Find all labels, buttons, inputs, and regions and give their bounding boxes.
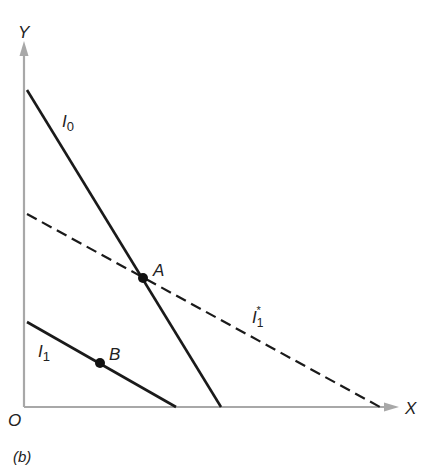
line-i0: [27, 90, 221, 407]
point-a: [138, 273, 148, 283]
y-axis-arrow-icon: [20, 41, 29, 56]
origin-label: O: [8, 411, 21, 430]
y-axis-label: Y: [18, 23, 31, 42]
point-b: [95, 358, 105, 368]
axes: [20, 41, 400, 412]
line-i1-star-label: I1*: [252, 304, 264, 330]
point-a-label: A: [152, 261, 164, 280]
budget-line-diagram: Y X O (b) I0 I1 I1* A B: [0, 0, 425, 474]
x-axis-label: X: [404, 399, 417, 418]
line-i0-label: I0: [62, 112, 74, 134]
point-b-label: B: [109, 345, 120, 364]
line-i1-label: I1: [38, 342, 50, 364]
x-axis-arrow-icon: [384, 403, 399, 412]
panel-label: (b): [13, 448, 31, 465]
